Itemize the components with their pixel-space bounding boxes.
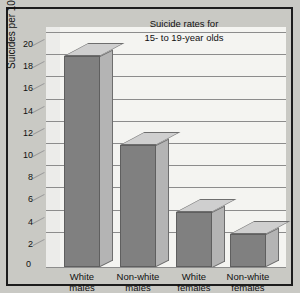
- y-axis-tick-label: 14: [23, 107, 33, 116]
- gridline-tick: [33, 83, 45, 90]
- y-axis-tick-label: 10: [23, 151, 33, 160]
- y-axis-tick-label: 2: [28, 240, 33, 249]
- chart-title: Suicide rates for 15- to 19-year olds: [126, 17, 242, 45]
- chart-title-line-1: Suicide rates for: [126, 17, 242, 31]
- gridline-tick: [33, 39, 45, 46]
- y-axis-tick-label: 6: [28, 195, 33, 204]
- bar: [176, 212, 212, 268]
- gridline-tick: [33, 61, 45, 68]
- y-axis-tick-label: 20: [23, 40, 33, 49]
- bar-side-face: [266, 227, 279, 267]
- bar-side-face: [212, 205, 225, 267]
- gridline-tick: [33, 194, 45, 201]
- bar-front-face: [120, 145, 156, 267]
- x-axis-baseline: [46, 267, 286, 268]
- bar: [120, 145, 156, 267]
- y-axis-title: Suicides per 100,000 in population: [6, 0, 17, 69]
- y-axis-tick-label: 8: [28, 173, 33, 182]
- bar-side-face: [156, 138, 169, 267]
- gridline-tick: [33, 106, 45, 113]
- gridline-tick: [33, 128, 45, 135]
- y-axis-tick-label: 4: [28, 218, 33, 227]
- gridline-tick: [33, 172, 45, 179]
- y-axis-tick-label: 12: [23, 129, 33, 138]
- y-axis-tick-label: 18: [23, 62, 33, 71]
- gridline-tick: [33, 150, 45, 157]
- x-axis-category-label-line: Non-white: [214, 271, 282, 282]
- bar-front-face: [64, 56, 100, 267]
- chart-title-line-2: 15- to 19-year olds: [126, 31, 242, 45]
- bar-side-face: [100, 49, 113, 267]
- gridline-tick: [33, 239, 45, 246]
- x-axis-category-label-line: females: [214, 282, 282, 293]
- y-axis-tick-zero: 0: [26, 259, 31, 269]
- chart-figure: 2468101214161820 Suicides per 100,000 in…: [6, 7, 293, 286]
- bar-front-face: [176, 212, 212, 268]
- x-axis-category-label: Non-whitefemales: [214, 271, 282, 293]
- bar-front-face: [230, 234, 266, 267]
- bar: [230, 234, 266, 267]
- bar: [64, 56, 100, 267]
- y-axis-tick-label: 16: [23, 84, 33, 93]
- gridline-tick: [33, 217, 45, 224]
